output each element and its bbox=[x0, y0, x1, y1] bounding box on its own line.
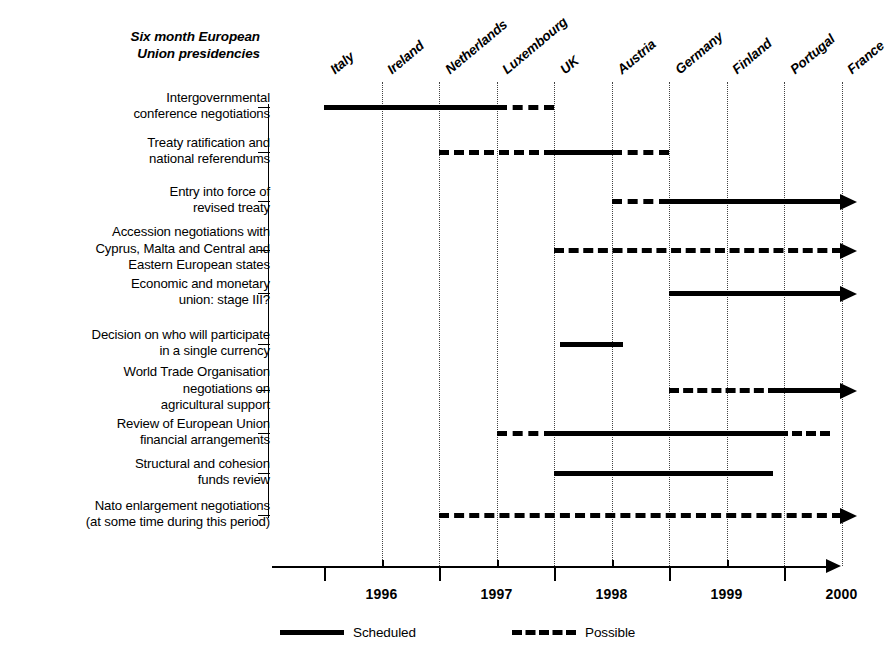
axis-tick-half-1996-5 bbox=[382, 560, 384, 566]
legend-item-scheduled: Scheduled bbox=[280, 625, 416, 640]
legend-label-scheduled: Scheduled bbox=[353, 625, 416, 640]
year-label-1999: 1999 bbox=[687, 586, 767, 602]
legend-swatch-dashed-icon bbox=[512, 630, 576, 635]
legend-item-possible: Possible bbox=[512, 625, 635, 640]
axis-tick-1996 bbox=[324, 567, 326, 581]
year-label-2000: 2000 bbox=[802, 586, 882, 602]
year-label-1997: 1997 bbox=[457, 586, 537, 602]
axis-tick-1997 bbox=[439, 567, 441, 581]
axis-tick-2000 bbox=[784, 567, 786, 581]
axis-tick-half-1998-5 bbox=[612, 560, 614, 566]
legend-label-possible: Possible bbox=[585, 625, 635, 640]
axis-tick-half-1999-5 bbox=[727, 560, 729, 566]
year-label-1996: 1996 bbox=[342, 586, 422, 602]
legend: Scheduled Possible bbox=[280, 625, 700, 649]
axis-tick-1998 bbox=[554, 567, 556, 581]
year-label-1998: 1998 bbox=[572, 586, 652, 602]
axis-tick-half-1997-5 bbox=[497, 560, 499, 566]
axis-tick-1999 bbox=[669, 567, 671, 581]
legend-swatch-solid-icon bbox=[280, 630, 344, 635]
